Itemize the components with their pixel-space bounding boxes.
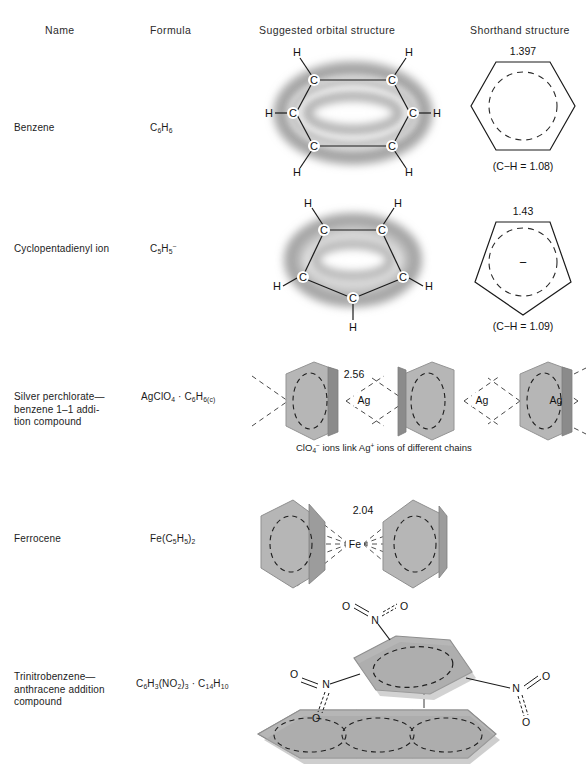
ch-note-benzene: (C−H = 1.08) (493, 160, 554, 172)
atom-label-H: H (405, 46, 413, 58)
atom-label-C: C (388, 74, 396, 86)
name-line: tion compound (14, 416, 134, 429)
pi-cloud-cyclopentadienyl (291, 220, 415, 300)
anthracene-plate (258, 710, 500, 764)
aromatic-circle (489, 72, 557, 140)
bond-length-label-cyclopentadienyl: 1.43 (513, 205, 534, 217)
row-formula-silver-perchlorate: AgClO4 · C6H6(c) (141, 391, 215, 403)
atom-label-H: H (304, 197, 312, 209)
cp-disc-left (261, 500, 325, 588)
ch-note-cyclopentadienyl: (C−H = 1.09) (493, 320, 554, 332)
column-header-name: Name (45, 24, 75, 36)
negative-charge-label: − (519, 255, 527, 270)
atom-label-H: H (349, 321, 357, 333)
atom-label-H: H (293, 46, 301, 58)
atom-label-C: C (399, 271, 407, 283)
atom-label-N: N (512, 682, 520, 694)
benzene-disc-1 (286, 362, 338, 440)
row-formula-cyclopentadienyl: C5H5− (150, 243, 177, 255)
atom-label-C: C (320, 224, 328, 236)
atom-label-H: H (433, 107, 441, 119)
atom-label-N: N (322, 678, 330, 690)
atom-label-C: C (310, 140, 318, 152)
atom-label-C: C (310, 74, 318, 86)
atom-label-O: O (542, 670, 550, 682)
distance-label-256: 2.56 (344, 368, 365, 380)
row-formula-trinitrobenzene: C6H3(NO2)3 · C14H10 (136, 678, 229, 690)
metal-label-Fe: Fe (349, 538, 361, 550)
name-line: benzene 1–1 addi- (14, 404, 134, 417)
atom-label-C: C (289, 107, 297, 119)
orbital-structure-trinitrobenzene-anthracene: N O O N O O N O O (238, 618, 588, 780)
benzene-disc-2 (398, 362, 454, 440)
row-name-silver-perchlorate: Silver perchlorate— benzene 1–1 addi- ti… (14, 391, 134, 429)
atom-label-C: C (349, 292, 357, 304)
row-name-benzene: Benzene (14, 122, 55, 135)
row-name-ferrocene: Ferrocene (14, 533, 61, 546)
name-line: Trinitrobenzene— (14, 671, 139, 684)
orbital-structure-silver-perchlorate: Ag Ag Ag 2.56 (248, 356, 588, 451)
name-line: compound (14, 696, 139, 709)
row-name-cyclopentadienyl: Cyclopentadienyl ion (14, 243, 109, 256)
atom-label-H: H (405, 166, 413, 178)
row-name-trinitrobenzene: Trinitrobenzene— anthracene addition com… (14, 671, 139, 709)
trinitrobenzene-plate (354, 636, 476, 700)
orbital-structure-ferrocene: Fe 2.04 (253, 492, 453, 597)
atom-label-O: O (522, 716, 530, 728)
caption-silver-perchlorate: ClO4− ions link Ag+ ions of different ch… (296, 442, 472, 454)
row-formula-ferrocene: Fe(C5H5)2 (150, 533, 196, 545)
atom-label-C: C (388, 140, 396, 152)
orbital-structure-cyclopentadienyl: C C C C C H H H H H (258, 198, 448, 338)
atom-label-H: H (265, 107, 273, 119)
nitro-group-top: N O O (342, 600, 408, 626)
atom-label-O: O (312, 712, 320, 724)
atom-label-H: H (394, 197, 402, 209)
atom-label-C: C (378, 224, 386, 236)
atom-label-O: O (342, 600, 350, 612)
shorthand-structure-cyclopentadienyl: 1.43 − (C−H = 1.09) (468, 200, 578, 332)
distance-label-204: 2.04 (353, 504, 374, 516)
bond-length-label-benzene: 1.397 (510, 45, 536, 57)
shorthand-structure-benzene: 1.397 (C−H = 1.08) (468, 40, 578, 180)
orbital-structure-benzene: C C C C C C H H H H H H (258, 38, 448, 188)
atom-label-H: H (273, 280, 281, 292)
metal-label-Ag: Ag (476, 394, 489, 406)
atom-label-O: O (290, 668, 298, 680)
metal-label-Ag: Ag (550, 394, 563, 406)
row-formula-benzene: C6H6 (150, 122, 173, 134)
atom-label-C: C (299, 271, 307, 283)
column-header-formula: Formula (150, 24, 191, 36)
name-line: anthracene addition (14, 684, 139, 697)
atom-label-H: H (293, 166, 301, 178)
hexagon-outline (471, 62, 575, 150)
column-header-shorthand-structure: Shorthand structure (470, 24, 570, 36)
atom-label-N: N (371, 614, 379, 626)
cp-disc-right (383, 500, 447, 588)
atom-label-O: O (400, 600, 408, 612)
name-line: Silver perchlorate— (14, 391, 134, 404)
atom-label-C: C (409, 107, 417, 119)
atom-label-H: H (425, 280, 433, 292)
metal-label-Ag: Ag (358, 394, 371, 406)
column-header-orbital-structure: Suggested orbital structure (259, 24, 395, 36)
nitro-group-right: N O O (512, 670, 550, 728)
